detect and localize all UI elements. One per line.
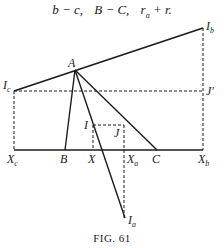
- label-I: I: [83, 118, 89, 132]
- label-Xb: Xb: [197, 152, 209, 168]
- label-A: A: [67, 56, 76, 70]
- solid-lines: [14, 28, 203, 218]
- dashed-construction-lines: [14, 28, 203, 218]
- label-Xc: Xc: [6, 152, 18, 168]
- label-Ia: Ia: [127, 213, 136, 229]
- label-B: B: [60, 152, 68, 166]
- label-Jprime: J′: [206, 84, 214, 98]
- label-C: C: [152, 152, 161, 166]
- label-J: J: [114, 126, 120, 140]
- line-Ic-Ib: [14, 28, 203, 91]
- line-A-B: [65, 70, 75, 150]
- geometry-diagram: A Ib Ic J′ I J Xc B X Xa C Xb Ia: [0, 0, 224, 248]
- line-A-Ia: [75, 70, 125, 218]
- label-X: X: [87, 152, 96, 166]
- label-Xa: Xa: [126, 152, 138, 168]
- label-Ib: Ib: [205, 19, 214, 35]
- figure-caption: FIG. 61: [0, 232, 224, 244]
- label-Ic: Ic: [2, 78, 11, 94]
